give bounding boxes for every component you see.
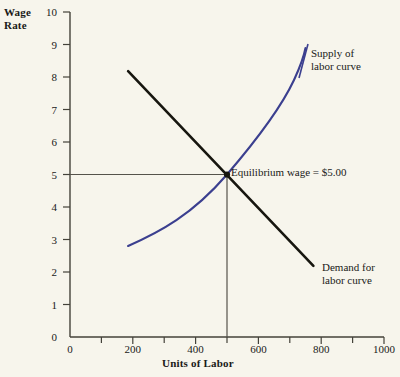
supply-label-leader-line bbox=[299, 44, 308, 78]
equilibrium-wage-annotation: Equilibrium wage = $5.00 bbox=[231, 166, 347, 179]
y-tick-label-8: 8 bbox=[35, 71, 57, 83]
y-tick-label-5: 5 bbox=[35, 169, 57, 181]
x-tick-label-200: 200 bbox=[113, 343, 153, 355]
y-tick-label-1: 1 bbox=[35, 299, 57, 311]
x-tick-label-800: 800 bbox=[301, 343, 341, 355]
y-tick-label-0: 0 bbox=[35, 331, 57, 343]
y-tick-label-10: 10 bbox=[35, 6, 57, 18]
y-tick-label-6: 6 bbox=[35, 136, 57, 148]
x-axis-title: Units of Labor bbox=[162, 357, 234, 370]
y-axis-ticks bbox=[63, 12, 70, 305]
x-tick-label-600: 600 bbox=[238, 343, 278, 355]
x-tick-label-1000: 1000 bbox=[364, 343, 400, 355]
y-tick-label-2: 2 bbox=[35, 266, 57, 278]
y-tick-label-7: 7 bbox=[35, 104, 57, 116]
y-tick-label-4: 4 bbox=[35, 201, 57, 213]
x-tick-label-0: 0 bbox=[50, 343, 90, 355]
supply-curve-label: Supply of labor curve bbox=[311, 47, 361, 73]
x-tick-label-400: 400 bbox=[176, 343, 216, 355]
demand-curve-label: Demand for labor curve bbox=[322, 261, 375, 287]
supply-of-labor-curve bbox=[128, 48, 305, 246]
equilibrium-point-marker bbox=[224, 171, 230, 177]
y-tick-label-9: 9 bbox=[35, 39, 57, 51]
y-axis-title: Wage Rate bbox=[4, 6, 31, 32]
y-tick-label-3: 3 bbox=[35, 234, 57, 246]
